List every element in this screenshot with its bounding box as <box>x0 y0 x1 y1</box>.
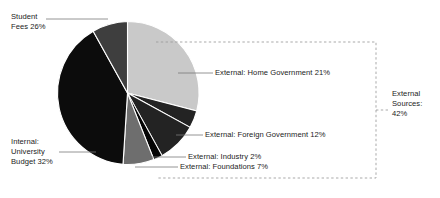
label-industry: External: Industry 2% <box>188 152 261 162</box>
label-internal-budget: Internal: University Budget 32% <box>11 137 53 168</box>
label-student-fees: Student Fees 26% <box>11 12 46 32</box>
label-external-sources: External Sources: 42% <box>392 89 422 120</box>
label-foreign-government: External: Foreign Government 12% <box>205 130 326 140</box>
pie-chart-figure: Student Fees 26% External: Home Governme… <box>0 0 440 198</box>
label-home-government: External: Home Government 21% <box>215 68 330 78</box>
label-foundations: External: Foundations 7% <box>180 162 268 172</box>
